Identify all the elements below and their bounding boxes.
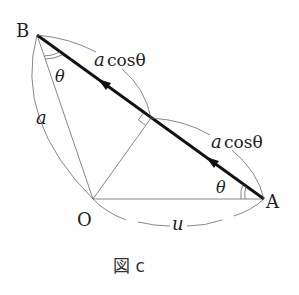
label-angle-A: θ	[216, 178, 226, 197]
dimension-arc-BH-right	[122, 69, 151, 118]
geometry-diagram: B O A a u a cosθ a cosθ θ θ 図 c	[0, 0, 299, 295]
perpendicular-OH	[93, 118, 151, 199]
label-B: B	[16, 20, 29, 41]
label-BH-cos: cosθ	[107, 50, 146, 70]
angle-arc-B-outer	[44, 52, 60, 56]
dimension-arc-HA-left	[151, 118, 210, 135]
right-angle-marker	[138, 113, 145, 126]
angle-arc-A-inner	[245, 186, 246, 199]
label-BH-a: a	[94, 49, 105, 70]
dimension-arc-u-right	[234, 199, 264, 216]
label-HA-a: a	[211, 131, 222, 152]
label-side-u: u	[172, 213, 184, 234]
label-A: A	[265, 191, 280, 212]
label-angle-B: θ	[55, 67, 65, 86]
dimension-arc-u-left	[93, 199, 126, 220]
dimension-arc-u-mid-right	[187, 220, 222, 226]
dimension-arc-HA-right	[232, 150, 264, 199]
dimension-arc-u-mid-left	[138, 222, 170, 226]
label-HA-cos: cosθ	[224, 132, 263, 152]
angle-arc-A-outer	[241, 184, 243, 199]
dimension-arc-BH-left	[37, 35, 96, 52]
figure-caption: 図 c	[113, 256, 145, 276]
label-O: O	[77, 209, 92, 230]
label-side-a: a	[36, 107, 47, 128]
